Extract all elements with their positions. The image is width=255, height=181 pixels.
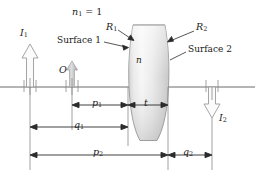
leader-surface2: [170, 52, 186, 60]
label-surface-1: Surface 1: [57, 36, 101, 45]
label-surface-2: Surface 2: [188, 45, 232, 54]
label-dimension-q2: q2: [183, 147, 193, 158]
label-radius-2: R2: [196, 22, 207, 33]
label-index-lens: n: [136, 56, 142, 65]
label-dimension-q1: q1: [74, 120, 84, 131]
label-image-1: I1: [20, 28, 28, 39]
optics-diagram-figure: n1 = 1 R1 R2 Surface 1 Surface 2 I1 I2 O…: [0, 0, 255, 181]
label-dimension-p2: p2: [93, 147, 103, 158]
label-object: O: [59, 65, 67, 75]
label-index-outside: n1 = 1: [72, 7, 102, 18]
label-radius-1: R1: [106, 22, 117, 33]
leader-surface1: [104, 42, 129, 50]
label-image-2: I2: [219, 113, 227, 124]
lens-body: [129, 25, 169, 141]
label-dimension-p1: p1: [92, 98, 102, 109]
diagram-canvas: [0, 0, 255, 181]
leader-r2: [168, 31, 195, 42]
label-dimension-t: t: [144, 98, 148, 109]
